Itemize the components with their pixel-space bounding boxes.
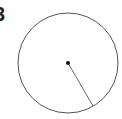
radius-line (68, 63, 93, 106)
circle-diagram (0, 0, 122, 119)
center-point (66, 61, 70, 65)
